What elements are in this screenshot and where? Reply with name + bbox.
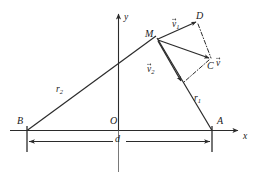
vector-label-v1-base-wrap: v bbox=[172, 20, 176, 30]
x-axis-label: x bbox=[243, 132, 247, 142]
diagram-canvas bbox=[0, 0, 262, 177]
vector-label-v1-subscript: 1 bbox=[176, 23, 179, 30]
vector-label-v1: v1 bbox=[172, 20, 179, 30]
distance-label-r2: r2 bbox=[56, 85, 63, 95]
vector-diagram-figure: x y O B A M D C r2 r1 d v1 v2 v bbox=[0, 0, 262, 177]
segment-BM-r2 bbox=[27, 36, 156, 131]
dashdot-D-to-C bbox=[198, 24, 211, 58]
distance-label-r1-subscript: 1 bbox=[198, 97, 201, 104]
axis-group bbox=[10, 14, 238, 172]
distance-label-r1: r1 bbox=[194, 94, 201, 104]
point-label-B: B bbox=[17, 116, 23, 126]
segment-MA-r1 bbox=[157, 38, 212, 131]
origin-label: O bbox=[110, 116, 117, 126]
vector-label-v2-base-wrap: v bbox=[147, 65, 151, 75]
point-label-D: D bbox=[196, 11, 203, 21]
vector-label-v-base: v bbox=[216, 58, 220, 68]
vector-label-v2: v2 bbox=[147, 65, 154, 75]
dimension-label-d: d bbox=[115, 134, 120, 144]
vector-label-v1-base: v bbox=[172, 19, 176, 29]
vector-label-v2-subscript: 2 bbox=[151, 68, 154, 75]
vector-label-v2-base: v bbox=[147, 64, 151, 74]
distance-label-r2-subscript: 2 bbox=[60, 88, 63, 95]
point-label-M: M bbox=[145, 29, 153, 39]
y-axis-label: y bbox=[124, 13, 128, 23]
dashdot-C-to-v2tip bbox=[184, 60, 209, 82]
point-label-A: A bbox=[217, 116, 223, 126]
triangle-group bbox=[27, 36, 212, 131]
vector-label-v-base-wrap: v bbox=[216, 59, 220, 69]
vector-label-v: v bbox=[216, 59, 220, 69]
construction-lines bbox=[184, 24, 211, 82]
point-label-C: C bbox=[207, 61, 214, 71]
